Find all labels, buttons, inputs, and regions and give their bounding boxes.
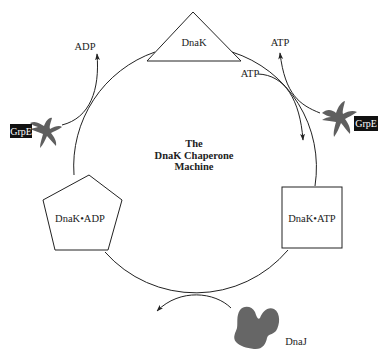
- atp-release-arrow: [280, 53, 320, 113]
- atp-exchange-step: ATP ATP GrpE: [241, 37, 378, 140]
- dnaj-protein-icon: [234, 307, 279, 349]
- cycle-circle: [74, 52, 317, 293]
- dnaj-step: DnaJ: [157, 295, 307, 349]
- dnaj-arrow: [157, 295, 231, 311]
- adp-release-arrow: [62, 54, 98, 125]
- dnak-adp-pentagon-state: DnaK•ADP: [43, 175, 122, 250]
- grpe-left-label: GrpE: [10, 126, 32, 137]
- atp-released-label: ATP: [271, 37, 290, 48]
- grpe-right-label: GrpE: [355, 118, 377, 129]
- dnak-triangle-state: DnaK: [147, 12, 241, 61]
- dnak-adp-label: DnaK•ADP: [55, 213, 105, 224]
- adp-release-step: ADP GrpE: [10, 41, 98, 148]
- dnak-label: DnaK: [181, 37, 206, 48]
- atp-bound-label: ATP: [241, 68, 260, 79]
- atp-binding-arrow: [258, 74, 303, 140]
- dnak-atp-label: DnaK•ATP: [288, 213, 336, 224]
- dnak-atp-square-state: DnaK•ATP: [282, 187, 342, 248]
- grpe-left-protein-icon: [30, 118, 62, 148]
- dnaj-label: DnaJ: [285, 336, 307, 347]
- title-line-3: Machine: [174, 161, 213, 172]
- grpe-right-protein-icon: [322, 101, 357, 137]
- title-line-1: The: [185, 138, 203, 149]
- adp-label: ADP: [74, 41, 95, 52]
- title-line-2: DnaK Chaperone: [155, 150, 234, 161]
- diagram-title: The DnaK Chaperone Machine: [155, 138, 234, 172]
- dnak-chaperone-cycle-diagram: DnaK DnaK•ATP DnaK•ADP The DnaK Chaperon…: [0, 0, 385, 354]
